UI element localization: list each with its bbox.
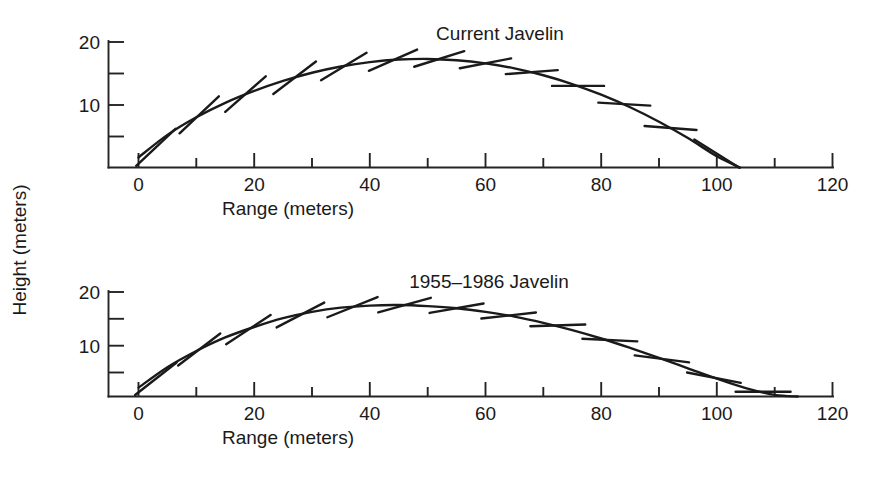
javelin-attitude-mark xyxy=(277,303,325,328)
javelin-attitude-mark xyxy=(226,315,270,344)
x-ticklabel-20: 20 xyxy=(244,174,265,195)
javelin-attitude-mark xyxy=(273,62,316,94)
panel-title-text: 1955–1986 Javelin xyxy=(409,271,569,292)
x-ticklabel-80: 80 xyxy=(591,403,612,424)
x-ticks-top: 0 20 40 60 80 100 120 xyxy=(133,153,848,195)
x-ticklabel-40: 40 xyxy=(359,403,380,424)
panel-title-current: Current Javelin xyxy=(436,23,564,44)
trajectory-path xyxy=(139,305,798,396)
y-ticks-top: 20 10 xyxy=(79,32,124,137)
javelin-attitude-mark xyxy=(225,76,265,112)
javelin-attitude-mark xyxy=(178,334,220,366)
y-ticks-bottom: 20 10 xyxy=(79,282,124,373)
javelin-attitude-mark xyxy=(180,96,219,133)
javelin-attitude-mark xyxy=(598,103,650,106)
javelin-attitude-mark xyxy=(327,297,377,317)
x-ticklabel-100: 100 xyxy=(701,403,733,424)
panel-title-text: Current Javelin xyxy=(436,23,564,44)
x-ticks-bottom: 0 20 40 60 80 100 120 xyxy=(133,382,848,424)
x-ticklabel-120: 120 xyxy=(817,403,849,424)
x-ticklabel-60: 60 xyxy=(475,174,496,195)
panel-current-javelin: Current Javelin 20 10 xyxy=(79,23,848,219)
x-ticklabel-100: 100 xyxy=(701,174,733,195)
javelin-attitude-mark xyxy=(635,355,689,362)
panel-title-1955: 1955–1986 Javelin xyxy=(409,271,569,292)
y-ticklabel-20: 20 xyxy=(79,282,100,303)
x-ticklabel-0: 0 xyxy=(133,403,144,424)
x-ticklabel-40: 40 xyxy=(359,174,380,195)
panel-1955-1986-javelin: 1955–1986 Javelin 20 10 xyxy=(79,271,848,448)
javelin-attitude-mark xyxy=(321,53,367,80)
y-ticklabel-10: 10 xyxy=(79,95,100,116)
trajectory-curve-bottom xyxy=(139,305,798,396)
x-ticklabel-20: 20 xyxy=(244,403,265,424)
javelin-attitude-marks-bottom xyxy=(135,297,790,395)
javelin-attitude-mark xyxy=(135,362,176,395)
trajectory-path xyxy=(139,59,740,168)
x-ticklabel-0: 0 xyxy=(133,174,144,195)
x-ticklabel-60: 60 xyxy=(475,403,496,424)
y-ticklabel-10: 10 xyxy=(79,336,100,357)
y-ticklabel-20: 20 xyxy=(79,32,100,53)
x-ticklabel-120: 120 xyxy=(817,174,849,195)
trajectory-curve-top xyxy=(139,59,740,168)
javelin-trajectory-figure: Height (meters) Current Javelin 20 10 xyxy=(0,0,871,479)
axes-top xyxy=(109,41,834,168)
javelin-attitude-mark xyxy=(530,325,585,327)
javelin-attitude-mark xyxy=(687,373,741,383)
x-ticklabel-80: 80 xyxy=(591,174,612,195)
shared-y-axis-label: Height (meters) xyxy=(9,185,30,316)
javelin-attitude-mark xyxy=(136,129,175,166)
x-axis-title-top: Range (meters) xyxy=(222,198,354,219)
javelin-attitude-mark xyxy=(582,339,637,342)
x-axis-title-bottom: Range (meters) xyxy=(222,427,354,448)
javelin-attitude-marks-top xyxy=(136,50,739,168)
